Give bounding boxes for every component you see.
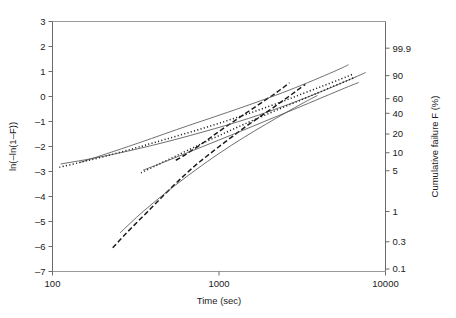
series-dataset-1-fit <box>79 65 348 163</box>
y-tick-label: –2 <box>35 141 46 152</box>
y2-tick-label: 1 <box>393 206 398 217</box>
y-tick-label: 2 <box>40 41 45 52</box>
y-tick-label: –4 <box>35 191 46 202</box>
x-axis-ticks: 100100010000 <box>45 272 399 289</box>
y2-tick-label: 60 <box>393 93 404 104</box>
x-tick-label: 1000 <box>208 278 229 289</box>
series-dataset-3-fit <box>120 96 317 233</box>
y-tick-label: 1 <box>40 66 45 77</box>
x-tick-label: 100 <box>45 278 61 289</box>
weibull-probability-plot: 3210–1–2–3–4–5–6–7 99.99060402010510.30.… <box>0 0 456 318</box>
series-dataset-2-data <box>59 74 353 167</box>
y-tick-label: 3 <box>40 16 45 27</box>
series-dataset-4-fit <box>143 83 359 171</box>
y2-tick-label: 90 <box>393 70 404 81</box>
y-axis-label: ln(–ln(1–F)) <box>7 122 18 171</box>
y-tick-label: –7 <box>35 266 46 277</box>
y-tick-label: –1 <box>35 116 46 127</box>
y-tick-label: –3 <box>35 166 46 177</box>
y2-axis-label: Cumulative failure F (%) <box>429 96 440 198</box>
y2-axis-ticks: 99.99060402010510.30.1 <box>386 43 412 275</box>
series-dataset-1-data <box>176 83 290 161</box>
y2-tick-label: 10 <box>393 147 404 158</box>
y-tick-label: 0 <box>40 91 45 102</box>
y2-tick-label: 5 <box>393 165 398 176</box>
y2-tick-label: 40 <box>393 108 404 119</box>
chart-root: 3210–1–2–3–4–5–6–7 99.99060402010510.30.… <box>0 0 456 318</box>
data-series-group <box>59 65 365 248</box>
y2-tick-label: 20 <box>393 128 404 139</box>
y-tick-label: –5 <box>35 216 46 227</box>
y-tick-label: –6 <box>35 241 46 252</box>
y2-tick-label: 0.1 <box>393 263 406 274</box>
x-tick-label: 10000 <box>372 278 398 289</box>
y-axis-ticks: 3210–1–2–3–4–5–6–7 <box>35 16 53 277</box>
y2-tick-label: 0.3 <box>393 236 406 247</box>
y2-tick-label: 99.9 <box>393 43 412 54</box>
x-axis-label: Time (sec) <box>197 295 242 306</box>
